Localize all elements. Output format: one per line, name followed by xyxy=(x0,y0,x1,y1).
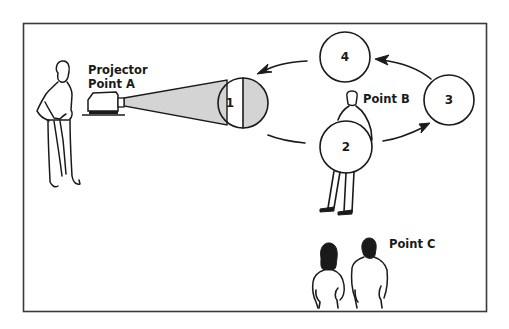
point-c-label: Point C xyxy=(389,237,435,251)
projector-label: Projector xyxy=(88,63,148,77)
screen-position-3: 3 xyxy=(424,75,474,125)
screen-position-4: 4 xyxy=(320,32,370,82)
position-1-label: 1 xyxy=(226,96,234,110)
room-layout-diagram: Projector Point A 1 4 3 xyxy=(0,0,509,329)
presenter-figure-icon xyxy=(37,61,80,187)
person-holding-screen-icon: 2 xyxy=(320,91,372,215)
position-2-label: 2 xyxy=(342,140,350,154)
point-a-label: Point A xyxy=(88,77,135,91)
projection-beam xyxy=(124,80,227,125)
position-3-label: 3 xyxy=(445,93,453,107)
projector-icon xyxy=(82,92,125,115)
audience-pair-icon xyxy=(313,238,388,308)
point-b-label: Point B xyxy=(363,92,410,106)
position-4-label: 4 xyxy=(341,50,349,64)
screen-position-1: 1 xyxy=(218,78,268,128)
